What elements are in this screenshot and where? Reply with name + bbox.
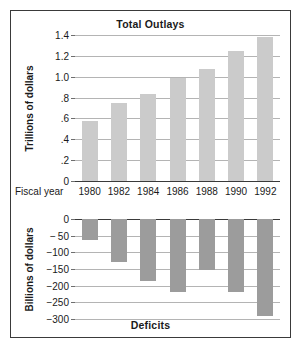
x-axis-year-1988: 1988 [192, 186, 222, 197]
x-axis-year-1982: 1982 [104, 186, 134, 197]
bar-1988 [199, 69, 215, 181]
x-axis-year-1980: 1980 [75, 186, 105, 197]
y-tick-label: −200 [46, 280, 69, 291]
bar-1980 [82, 121, 98, 181]
bar-1986 [170, 78, 186, 181]
y-tick-mark [71, 181, 75, 182]
bar-series-total-outlays [75, 35, 280, 181]
bar-1992 [257, 219, 273, 316]
y-tick-label: − 50 [50, 230, 69, 241]
bar-1988 [199, 219, 215, 270]
plot-area-deficits: 0− 50−100−150−200−250−300 [75, 219, 280, 319]
bar-1982 [111, 103, 127, 181]
bar-1990 [228, 219, 244, 292]
bar-1992 [257, 37, 273, 181]
chart-title-deficits: Deficits [11, 319, 290, 331]
y-tick-label: .4 [61, 134, 69, 145]
y-tick-label: −150 [46, 264, 69, 275]
chart-title-total-outlays: Total Outlays [11, 18, 290, 30]
bar-1980 [82, 219, 98, 240]
x-axis-year-1984: 1984 [133, 186, 163, 197]
x-axis-year-1986: 1986 [163, 186, 193, 197]
y-axis-label-billions: Billions of dollars [24, 210, 35, 330]
bar-1984 [140, 94, 156, 181]
y-tick-label: −100 [46, 247, 69, 258]
y-tick-label: −250 [46, 297, 69, 308]
y-tick-label: .6 [61, 113, 69, 124]
bar-series-deficits [75, 219, 280, 319]
x-axis-year-1992: 1992 [250, 186, 280, 197]
bar-1990 [228, 51, 244, 181]
y-tick-label: .8 [61, 92, 69, 103]
y-tick-label: 1.0 [55, 71, 69, 82]
axis-line-zero: 0 [75, 181, 280, 182]
bar-1982 [111, 219, 127, 262]
bar-1984 [140, 219, 156, 281]
y-tick-label: .2 [61, 155, 69, 166]
x-axis-year-1990: 1990 [221, 186, 251, 197]
y-tick-label: 1.2 [55, 50, 69, 61]
y-tick-label: 1.4 [55, 30, 69, 41]
x-axis-year-row: Fiscal year 1980198219841986198819901992 [11, 185, 290, 201]
x-axis-caption: Fiscal year [15, 186, 63, 197]
figure-frame: Total Outlays Trillions of dollars 0.2.4… [10, 10, 291, 338]
bar-1986 [170, 219, 186, 292]
plot-area-total-outlays: 0.2.4.6.81.01.21.4 [75, 35, 280, 181]
y-tick-label: 0 [63, 214, 69, 225]
y-axis-label-trillions: Trillions of dollars [24, 44, 35, 174]
